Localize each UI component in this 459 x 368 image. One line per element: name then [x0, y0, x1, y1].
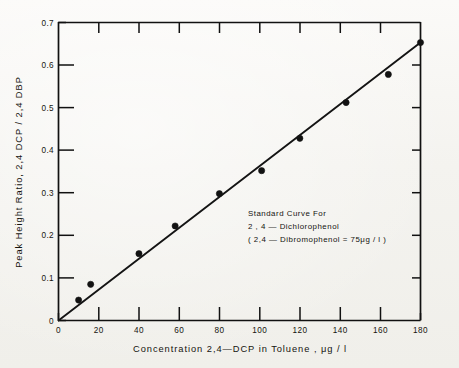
- y-axis-ticks: [58, 23, 74, 321]
- y-axis-tick-labels: 0 0.1 0.2 0.3 0.4 0.5 0.6 0.7: [42, 19, 55, 326]
- data-point: [88, 281, 94, 287]
- x-axis-tick-labels: 0 20 40 60 80 100 120 140 160 180: [56, 326, 428, 335]
- x-tick-label-120: 120: [293, 326, 308, 335]
- data-point: [297, 135, 303, 141]
- calibration-fit-line: [59, 43, 421, 321]
- y-tick-label-7: 0.7: [42, 19, 55, 28]
- annotation-line-3: ( 2,4 — Dibromophenol = 75μg / l ): [248, 235, 386, 244]
- x-axis-title: Concentration 2,4—DCP in Toluene , μg / …: [133, 344, 347, 354]
- x-tick-label-180: 180: [413, 326, 428, 335]
- plot-frame: [58, 22, 421, 321]
- annotation-line-2: 2 , 4 — Dichlorophenol: [248, 222, 339, 231]
- x-tick-label-60: 60: [174, 326, 184, 335]
- data-point: [343, 99, 349, 105]
- x-tick-label-80: 80: [215, 326, 225, 335]
- data-point-group: [76, 39, 424, 303]
- x-tick-label-140: 140: [333, 326, 348, 335]
- x-axis-ticks: [59, 307, 421, 320]
- y-tick-label-0: 0: [49, 317, 54, 326]
- data-point: [385, 71, 391, 77]
- data-point: [76, 297, 82, 303]
- data-point: [136, 251, 142, 257]
- y-tick-label-2: 0.2: [42, 231, 55, 240]
- data-point: [417, 39, 423, 45]
- annotation-line-1: Standard Curve For: [248, 209, 326, 218]
- data-point: [172, 223, 178, 229]
- x-tick-label-40: 40: [134, 326, 144, 335]
- y-tick-label-4: 0.4: [42, 146, 55, 155]
- calibration-curve-chart: 0 0.1 0.2 0.3 0.4 0.5 0.6 0.7: [0, 0, 459, 368]
- right-border-ticks: [412, 65, 420, 278]
- x-tick-label-100: 100: [252, 326, 267, 335]
- y-tick-label-3: 0.3: [42, 189, 55, 198]
- y-tick-label-5: 0.5: [42, 104, 55, 113]
- annotation-block: Standard Curve For 2 , 4 — Dichloropheno…: [248, 209, 386, 244]
- y-tick-label-6: 0.6: [42, 61, 55, 70]
- x-tick-label-0: 0: [56, 326, 61, 335]
- data-point: [216, 191, 222, 197]
- x-tick-label-20: 20: [94, 326, 104, 335]
- top-border-ticks: [99, 23, 381, 33]
- data-point: [259, 168, 265, 174]
- y-axis-title: Peak Height Ratio, 2,4 DCP / 2,4 DBP: [14, 76, 24, 268]
- y-tick-label-1: 0.1: [42, 274, 55, 283]
- x-tick-label-160: 160: [373, 326, 388, 335]
- figure-container: 0 0.1 0.2 0.3 0.4 0.5 0.6 0.7: [0, 0, 459, 368]
